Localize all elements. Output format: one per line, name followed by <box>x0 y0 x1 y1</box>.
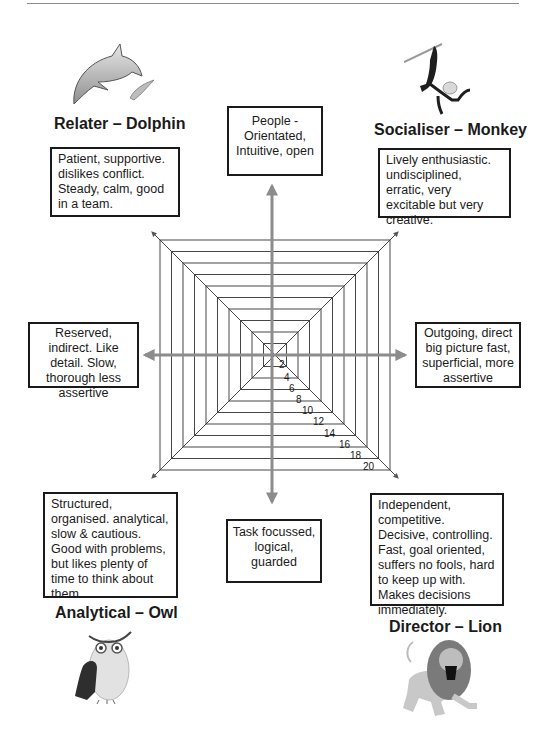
director-title: Director – Lion <box>389 618 502 636</box>
analytical-description: Structured, organised. analytical, slow … <box>43 492 178 598</box>
axis-left-label: Reserved, indirect. Like detail. Slow, t… <box>28 322 139 388</box>
analytical-title: Analytical – Owl <box>55 604 178 622</box>
scale-label: 8 <box>296 394 302 405</box>
scale-label: 16 <box>339 439 350 450</box>
scale-label: 18 <box>350 450 361 461</box>
scale-label: 2 <box>279 359 285 370</box>
axis-bottom-label: Task focussed, logical, guarded <box>226 519 322 583</box>
main-axes <box>145 186 405 502</box>
owl-icon <box>73 628 133 708</box>
director-description: Independent, competitive. Decisive, cont… <box>370 493 504 606</box>
scale-label: 14 <box>324 428 335 439</box>
lion-icon <box>399 636 483 718</box>
scale-label: 20 <box>363 461 374 472</box>
scale-label: 4 <box>284 372 290 383</box>
scale-label: 6 <box>289 383 295 394</box>
scale-label: 10 <box>302 405 313 416</box>
axis-right-label: Outgoing, direct big picture fast, super… <box>415 322 521 388</box>
scale-label: 12 <box>313 416 324 427</box>
